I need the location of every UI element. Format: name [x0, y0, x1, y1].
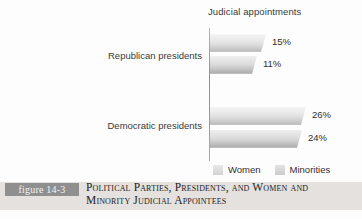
legend-swatch-icon-women — [213, 165, 223, 175]
figure-caption-text: Political Parties, Presidents, and Women… — [86, 181, 354, 206]
chart-title: Judicial appointments — [208, 6, 301, 17]
legend-item-minorities: Minorities — [275, 164, 331, 175]
legend-swatch-icon-minorities — [275, 165, 285, 175]
bar-fill — [210, 34, 266, 52]
bar-republican-minorities: 11% — [210, 56, 257, 74]
bar-value-label-democratic-minorities: 24% — [308, 132, 327, 143]
bar-democratic-women: 26% — [210, 107, 306, 125]
bar-fill — [210, 107, 306, 125]
bar-democratic-minorities: 24% — [210, 130, 302, 148]
bar-fill — [210, 56, 257, 74]
legend-label-minorities: Minorities — [290, 164, 331, 175]
bar-fill — [210, 130, 302, 148]
figure-number-badge: figure 14-3 — [5, 183, 79, 196]
chart-legend: Women Minorities — [213, 164, 330, 175]
category-label-democratic-presidents: Democratic presidents — [52, 120, 202, 131]
legend-item-women: Women — [213, 164, 261, 175]
bar-value-label-democratic-women: 26% — [312, 109, 331, 120]
bar-republican-women: 15% — [210, 34, 266, 52]
bar-value-label-republican-women: 15% — [272, 36, 291, 47]
legend-label-women: Women — [228, 164, 261, 175]
bar-value-label-republican-minorities: 11% — [263, 58, 281, 69]
category-label-republican-presidents: Republican presidents — [52, 50, 202, 61]
figure-14-3: Judicial appointments Republican preside… — [0, 0, 362, 180]
